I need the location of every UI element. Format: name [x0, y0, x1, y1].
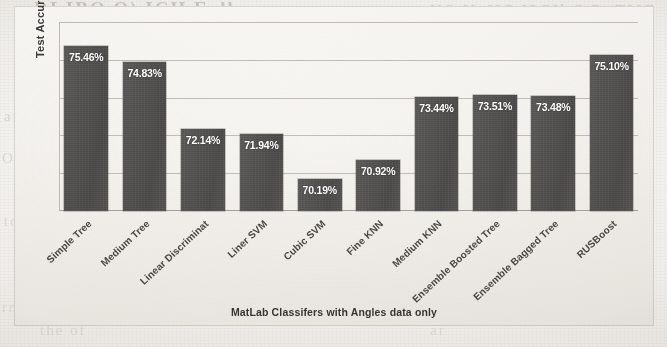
bar-value-label: 71.94% — [244, 139, 278, 151]
x-tick-slot: Ensemble Bagged Tree — [527, 214, 580, 300]
bar[interactable]: 72.14% — [181, 129, 225, 211]
bar[interactable]: 73.51% — [473, 95, 517, 211]
bar-value-label: 74.83% — [127, 67, 161, 79]
bar-series: 75.46%74.83%72.14%71.94%70.19%70.92%73.4… — [60, 22, 638, 211]
x-tick-slot: Cubic SVM — [294, 214, 347, 300]
x-axis-title: MatLab Classifers with Angles data only — [14, 306, 654, 318]
bar-value-label: 75.46% — [69, 51, 103, 63]
x-tick-label: Liner SVM — [225, 218, 269, 260]
bar[interactable]: 70.19% — [298, 179, 342, 212]
bar-value-label: 73.48% — [536, 101, 570, 113]
bar-value-label: 70.19% — [303, 184, 337, 196]
bar[interactable]: 73.44% — [415, 97, 459, 211]
bar[interactable]: 73.48% — [531, 96, 575, 211]
bar[interactable]: 71.94% — [240, 134, 284, 211]
bar[interactable]: 74.83% — [123, 62, 167, 211]
x-tick-label: Fine KNN — [345, 218, 386, 257]
bar-value-label: 75.10% — [594, 60, 628, 72]
bar-value-label: 72.14% — [186, 134, 220, 146]
x-tick-slot: RUSBoost — [585, 214, 638, 300]
bar-slot: 73.48% — [527, 22, 580, 211]
bar[interactable]: 70.92% — [356, 160, 400, 211]
x-tick-slot: Linear Discriminat — [177, 214, 230, 300]
bar-slot: 73.44% — [410, 22, 463, 211]
bar-slot: 70.92% — [352, 22, 405, 211]
x-tick-label: RUSBoost — [575, 218, 619, 260]
bar[interactable]: 75.46% — [64, 46, 108, 211]
plot-area: 75.46%74.83%72.14%71.94%70.19%70.92%73.4… — [60, 22, 638, 211]
y-axis-title: Test Accuracy — [34, 0, 46, 58]
bar[interactable]: 75.10% — [590, 55, 634, 211]
bar-value-label: 73.44% — [419, 102, 453, 114]
x-axis-tick-labels: Simple TreeMedium TreeLinear Discriminat… — [60, 214, 638, 300]
bar-slot: 74.83% — [118, 22, 171, 211]
x-tick-label: Simple Tree — [44, 218, 93, 265]
bar-chart: Test Accuracy 75.46%74.83%72.14%71.94%70… — [14, 6, 654, 326]
x-tick-label: Cubic SVM — [281, 218, 327, 262]
x-tick-slot: Liner SVM — [235, 214, 288, 300]
bar-value-label: 73.51% — [478, 100, 512, 112]
bar-slot: 72.14% — [177, 22, 230, 211]
bar-slot: 71.94% — [235, 22, 288, 211]
bar-slot: 75.10% — [585, 22, 638, 211]
bar-slot: 70.19% — [294, 22, 347, 211]
bar-slot: 73.51% — [469, 22, 522, 211]
bar-value-label: 70.92% — [361, 165, 395, 177]
bar-slot: 75.46% — [60, 22, 113, 211]
